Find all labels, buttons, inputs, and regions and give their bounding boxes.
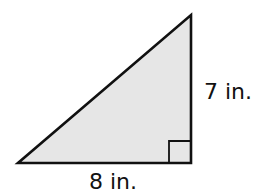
height-label: 7 in. [204,81,252,103]
base-label: 8 in. [89,171,137,193]
right-triangle [18,15,191,163]
